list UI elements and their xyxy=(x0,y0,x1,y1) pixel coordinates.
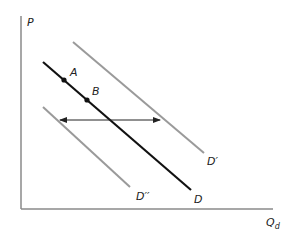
demand-curves xyxy=(43,42,204,190)
x-axis-label: Qd xyxy=(266,216,281,231)
point-label-B: B xyxy=(92,85,100,98)
curve-label-D: D xyxy=(194,193,202,206)
curve-D_double_prime xyxy=(43,107,130,187)
curve-label-D_prime: D′ xyxy=(207,155,218,168)
point-A xyxy=(61,77,66,82)
point-label-A: A xyxy=(69,66,78,79)
point-B xyxy=(84,97,89,102)
y-axis-label: P xyxy=(27,16,34,29)
labels: PQdDD′D′′AB xyxy=(27,16,281,231)
demand-diagram: PQdDD′D′′AB xyxy=(0,0,294,241)
axes xyxy=(21,16,273,209)
curve-label-D_double_prime: D′′ xyxy=(136,190,150,203)
